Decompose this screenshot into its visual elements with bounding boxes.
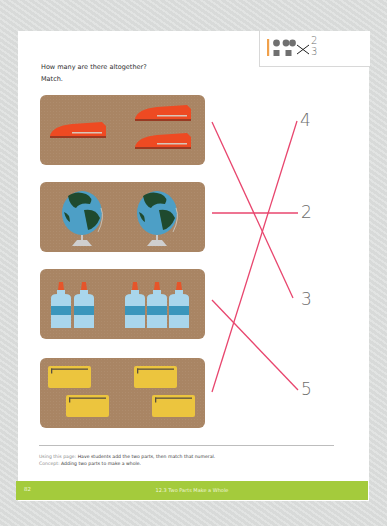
panel-globes[interactable] xyxy=(40,182,205,252)
folder-icon xyxy=(134,366,177,388)
stapler-icon xyxy=(50,122,106,138)
instructions: How many are there altogether? Match. xyxy=(41,61,147,85)
panel-staplers[interactable] xyxy=(40,95,205,165)
stapler-icon xyxy=(135,133,191,149)
numeral-5[interactable]: 5 xyxy=(301,379,312,399)
command-text: Match. xyxy=(41,73,147,85)
worksheet-page: 2 3 How many are there altogether? Match… xyxy=(18,31,369,501)
lesson-title: 12.3 Two Parts Make a Whole xyxy=(16,487,368,493)
concept-label: Concept: xyxy=(39,461,60,466)
using-text: Have students add the two parts, then ma… xyxy=(78,454,216,459)
match-line-folders-4 xyxy=(212,121,297,392)
page-footer: 82 12.3 Two Parts Make a Whole xyxy=(16,481,368,500)
badge-numeral-top: 2 xyxy=(311,35,317,46)
numeral-4[interactable]: 4 xyxy=(300,110,311,130)
folder-icon xyxy=(48,366,91,388)
badge-numeral-bottom: 3 xyxy=(311,46,317,57)
activity-type-badge: 2 3 xyxy=(259,31,370,67)
globe-icon xyxy=(137,191,177,246)
panel-folders[interactable] xyxy=(40,358,205,428)
panel-glue-bottles[interactable] xyxy=(40,269,205,339)
glue-bottle-icon xyxy=(147,282,167,328)
globe-icon xyxy=(62,191,102,246)
glue-bottle-icon xyxy=(125,282,145,328)
concept-text: Adding two parts to make a whole. xyxy=(61,461,141,466)
glue-bottle-icon xyxy=(74,282,94,328)
match-line-staplers-3 xyxy=(212,122,293,298)
numeral-2[interactable]: 2 xyxy=(301,202,312,222)
teacher-note: Using this page: Have students add the t… xyxy=(39,454,215,467)
divider xyxy=(39,445,334,446)
glue-bottle-icon xyxy=(51,282,71,328)
numeral-3[interactable]: 3 xyxy=(301,289,312,309)
folder-icon xyxy=(152,395,195,417)
folder-icon xyxy=(66,395,109,417)
match-line-glue-5 xyxy=(212,300,298,390)
stapler-icon xyxy=(135,105,191,121)
using-label: Using this page: xyxy=(39,454,76,459)
glue-bottle-icon xyxy=(169,282,189,328)
question-text: How many are there altogether? xyxy=(41,61,147,73)
